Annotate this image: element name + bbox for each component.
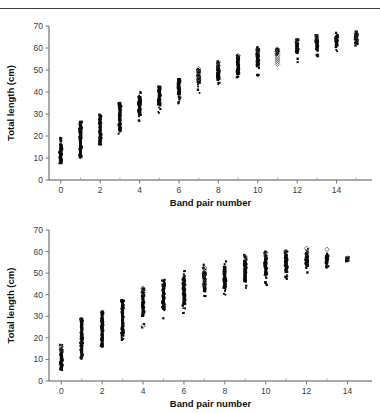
- data-points: [59, 246, 350, 371]
- y-tick-label: 70: [34, 21, 44, 31]
- open-diamond-marker: [325, 247, 330, 252]
- y-tick-label: 0: [38, 175, 43, 185]
- y-axis-title: Total length (cm): [5, 268, 16, 344]
- y-tick-label: 10: [34, 153, 44, 163]
- y-tick-label: 20: [34, 131, 44, 141]
- y-tick-label: 20: [34, 333, 44, 343]
- x-tick-label: 6: [182, 386, 187, 396]
- x-tick-label: 14: [343, 386, 353, 396]
- x-tick-label: 12: [302, 386, 312, 396]
- scatter-panel-top: 01020304050607002468101214Band pair numb…: [0, 14, 380, 210]
- x-tick-label: 2: [98, 185, 103, 195]
- scatter-plot-top-svg: 01020304050607002468101214Band pair numb…: [0, 14, 380, 210]
- data-points: [58, 30, 358, 164]
- y-tick-label: 60: [34, 43, 44, 53]
- y-tick-label: 40: [34, 290, 44, 300]
- x-tick-label: 2: [100, 386, 105, 396]
- x-tick-label: 0: [59, 386, 64, 396]
- top-horizontal-rule: [0, 8, 380, 9]
- y-tick-label: 0: [38, 376, 43, 386]
- x-tick-label: 12: [292, 185, 302, 195]
- x-tick-label: 8: [222, 386, 227, 396]
- y-tick-label: 50: [34, 65, 44, 75]
- x-axis-title: Band pair number: [170, 197, 252, 208]
- x-axis-title: Band pair number: [170, 398, 252, 409]
- y-tick-label: 60: [34, 247, 44, 257]
- x-tick-label: 8: [216, 185, 221, 195]
- x-tick-label: 10: [253, 185, 263, 195]
- x-tick-label: 4: [141, 386, 146, 396]
- y-axis-title: Total length (cm): [5, 65, 16, 141]
- x-tick-label: 14: [332, 185, 342, 195]
- y-tick-label: 50: [34, 268, 44, 278]
- scatter-panel-bottom: 01020304050607002468101214Band pair numb…: [0, 218, 380, 413]
- y-tick-label: 10: [34, 354, 44, 364]
- scatter-plot-bottom-svg: 01020304050607002468101214Band pair numb…: [0, 218, 380, 413]
- figure-container: 01020304050607002468101214Band pair numb…: [0, 0, 380, 413]
- x-tick-label: 6: [177, 185, 182, 195]
- y-tick-label: 30: [34, 311, 44, 321]
- y-tick-label: 40: [34, 87, 44, 97]
- x-tick-label: 10: [261, 386, 271, 396]
- y-tick-label: 30: [34, 109, 44, 119]
- x-tick-label: 0: [58, 185, 63, 195]
- y-tick-label: 70: [34, 225, 44, 235]
- x-tick-label: 4: [137, 185, 142, 195]
